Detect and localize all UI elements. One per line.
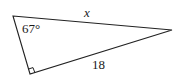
angle-label: 67° [22, 21, 40, 36]
hypotenuse-label: x [83, 5, 90, 20]
triangle-diagram: 67° x 18 [0, 0, 181, 76]
leg-label: 18 [92, 57, 105, 72]
